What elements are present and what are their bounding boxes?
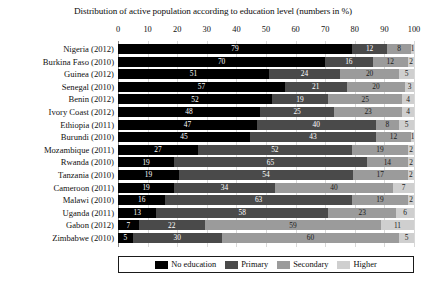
- bar-row: Mozambique (2011)2752192: [118, 144, 414, 156]
- bar-segment: 24: [269, 69, 340, 79]
- bar-segment-value: 12: [366, 45, 373, 52]
- bar-segment: 19: [352, 145, 408, 155]
- bar-segment-value: 57: [198, 83, 205, 90]
- bar-segment: 5: [399, 69, 414, 79]
- bar-segment: 70: [118, 57, 325, 67]
- legend-item: Secondary: [277, 260, 328, 269]
- bar-segment-value: 19: [142, 159, 149, 166]
- stacked-bar: 474085: [118, 120, 414, 130]
- bar-segment-value: 24: [301, 70, 308, 77]
- bar-segment: 7: [118, 220, 139, 230]
- bar-segment-value: 7: [402, 184, 406, 191]
- bar-segment: 6: [396, 208, 414, 218]
- bar-segment-value: 40: [330, 184, 337, 191]
- bar-segment: 12: [376, 132, 411, 142]
- bar-segment: 7: [393, 183, 414, 193]
- bar-segment: 2: [408, 195, 414, 205]
- bar-segment-value: 3: [408, 83, 412, 90]
- stacked-bar: 5219254: [118, 94, 414, 104]
- category-label: Burundi (2010): [61, 132, 114, 142]
- bar-segment-value: 19: [376, 146, 383, 153]
- bar-segment: 47: [118, 120, 257, 130]
- bar-segment: 16: [118, 195, 165, 205]
- bar-segment: 25: [260, 107, 334, 117]
- stacked-bar: 791281: [118, 44, 414, 54]
- bar-row: Malawi (2010)1663192: [118, 194, 414, 206]
- bar-segment: 30: [133, 233, 222, 243]
- legend-swatch: [155, 261, 168, 269]
- bar-segment: 5: [399, 120, 414, 130]
- stacked-bar: 1358236: [118, 208, 414, 218]
- bar-segment-value: 19: [296, 96, 303, 103]
- category-label: Guinea (2012): [64, 69, 114, 79]
- bar-segment: 52: [198, 145, 352, 155]
- bar-segment: 5: [118, 233, 133, 243]
- bar-segment: 13: [118, 208, 156, 218]
- bar-segment-value: 14: [384, 159, 391, 166]
- bar-segment: 12: [373, 57, 409, 67]
- bar-segment: 2: [408, 57, 414, 67]
- bar-row: Ivory Coast (2012)4825234: [118, 106, 414, 118]
- bar-segment: 20: [340, 69, 399, 79]
- bar-segment-value: 17: [377, 171, 384, 178]
- bar-segment: 40: [275, 183, 393, 193]
- bar-row: Guinea (2012)5124205: [118, 68, 414, 80]
- bar-segment-value: 59: [289, 222, 296, 229]
- bar-segment: 63: [165, 195, 351, 205]
- plot-area: Nigeria (2012)791281Burkina Faso (2010)7…: [118, 41, 414, 247]
- bar-row: Cameroon (2011)1934407: [118, 182, 414, 194]
- x-tick-label: 40: [232, 25, 240, 34]
- bar-row: Zimbabwe (2010)530605: [118, 232, 414, 244]
- bar-segment-value: 2: [409, 159, 413, 166]
- stacked-bar: 1965142: [118, 157, 414, 167]
- bar-segment-value: 1: [411, 133, 414, 140]
- x-axis-tick-labels: 0102030405060708090100: [118, 25, 414, 37]
- bar-segment: 1: [411, 44, 414, 54]
- bar-segment-value: 25: [361, 96, 368, 103]
- bar-segment: 4: [402, 107, 414, 117]
- bar-segment-value: 43: [309, 133, 316, 140]
- category-label: Benin (2012): [68, 94, 114, 104]
- bar-segment-value: 63: [255, 196, 262, 203]
- bar-segment: 16: [325, 57, 372, 67]
- bar-segment: 19: [272, 94, 328, 104]
- bar-segment-value: 34: [221, 184, 228, 191]
- bar-segment: 12: [352, 44, 388, 54]
- x-tick-label: 0: [116, 25, 120, 34]
- x-tick-label: 10: [143, 25, 151, 34]
- bar-segment-value: 4: [406, 96, 410, 103]
- legend-swatch: [225, 261, 238, 269]
- bar-segment-value: 16: [345, 58, 352, 65]
- bar-segment: 2: [408, 145, 414, 155]
- bar-segment-value: 27: [154, 146, 161, 153]
- category-label: Gabon (2012): [66, 220, 114, 230]
- bar-segment: 20: [347, 82, 406, 92]
- bar-segment: 11: [381, 220, 414, 230]
- bar-segment: 19: [118, 170, 179, 180]
- category-label: Rwanda (2010): [61, 157, 114, 167]
- category-label: Ethiopia (2011): [60, 120, 114, 130]
- bar-segment-value: 8: [397, 45, 401, 52]
- bar-row: Benin (2012)5219254: [118, 93, 414, 105]
- category-label: Zimbabwe (2010): [52, 233, 114, 243]
- bar-segment-value: 19: [142, 184, 149, 191]
- category-label: Ivory Coast (2012): [49, 107, 114, 117]
- bar-segment-value: 47: [184, 121, 191, 128]
- bar-segment-value: 52: [191, 96, 198, 103]
- bar-segment: 23: [328, 208, 396, 218]
- bar-segment-value: 12: [390, 133, 397, 140]
- bar-segment-value: 21: [312, 83, 319, 90]
- bar-row: Tanzania (2010)1954172: [118, 169, 414, 181]
- bar-segment-value: 8: [385, 121, 389, 128]
- bar-segment-value: 23: [364, 108, 371, 115]
- bar-segment-value: 79: [231, 45, 238, 52]
- bar-segment: 2: [408, 157, 414, 167]
- legend-item: No education: [155, 260, 216, 269]
- category-label: Malawi (2010): [63, 195, 114, 205]
- x-tick-label: 80: [351, 25, 359, 34]
- stacked-bar: 530605: [118, 233, 414, 243]
- bar-segment-value: 20: [366, 70, 373, 77]
- legend-label: Secondary: [293, 260, 328, 269]
- bar-segment-value: 25: [293, 108, 300, 115]
- bar-segment: 23: [334, 107, 402, 117]
